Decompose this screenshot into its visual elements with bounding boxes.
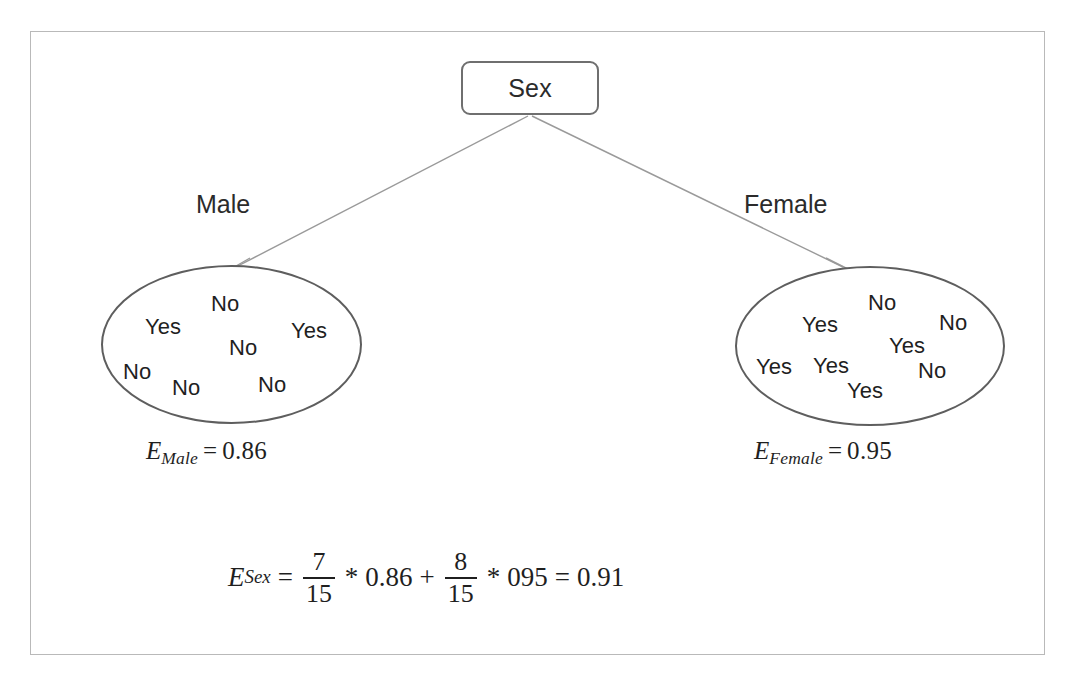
figure-canvas: Sex Male Female NoYesYesNoNoNoNo NoYesNo… [0, 0, 1079, 694]
entropy-female-subscript: Female [769, 448, 823, 468]
entropy-male-equals: = [198, 437, 222, 464]
entropy-male-subscript: Male [161, 448, 198, 468]
weighted-entropy-equation: ESex= 7 15 *0.86+ 8 15 *095=0.91 [228, 548, 624, 606]
fraction-eight-fifteenths: 8 15 [445, 549, 477, 607]
leaf-class-label: No [229, 335, 257, 361]
equation-multiply-1: * [338, 562, 366, 593]
leaf-class-label: No [918, 358, 946, 384]
root-node-sex: Sex [461, 61, 599, 115]
equation-equals-2: = [548, 562, 577, 593]
leaf-class-label: No [939, 310, 967, 336]
leaf-class-label: No [258, 372, 286, 398]
entropy-label-male: EMale=0.86 [146, 437, 267, 469]
fraction-seven-fifteenths: 7 15 [303, 549, 335, 607]
leaf-class-label: No [868, 290, 896, 316]
entropy-female-symbol: E [754, 437, 769, 464]
leaf-ellipse-female: NoYesNoYesYesYesNoYes [735, 266, 1005, 426]
leaf-class-label: Yes [756, 354, 792, 380]
leaf-class-label: No [172, 375, 200, 401]
leaf-class-label: Yes [847, 378, 883, 404]
equation-result: 0.91 [577, 562, 624, 593]
entropy-label-female: EFemale=0.95 [754, 437, 892, 469]
fraction-1-numerator: 7 [309, 549, 328, 577]
leaf-class-label: No [123, 359, 151, 385]
leaf-class-label: Yes [813, 353, 849, 379]
equation-multiply-2: * [480, 562, 508, 593]
leaf-class-label: Yes [145, 314, 181, 340]
leaf-class-label: Yes [889, 333, 925, 359]
equation-term-1: 0.86 [365, 562, 412, 593]
equation-subscript: Sex [245, 566, 271, 588]
entropy-male-value: 0.86 [222, 437, 267, 464]
fraction-2-denominator: 15 [445, 579, 477, 607]
entropy-male-symbol: E [146, 437, 161, 464]
equation-symbol: E [228, 562, 245, 593]
equation-equals: = [271, 562, 300, 593]
leaf-class-label: Yes [802, 312, 838, 338]
equation-term-2: 095 [507, 562, 548, 593]
leaf-class-label: No [211, 291, 239, 317]
fraction-1-denominator: 15 [303, 579, 335, 607]
leaf-ellipse-male: NoYesYesNoNoNoNo [101, 265, 362, 424]
branch-label-male: Male [196, 190, 250, 219]
entropy-female-value: 0.95 [847, 437, 892, 464]
entropy-female-equals: = [823, 437, 847, 464]
fraction-2-numerator: 8 [451, 549, 470, 577]
leaf-class-label: Yes [291, 318, 327, 344]
equation-plus: + [413, 562, 442, 593]
root-node-label: Sex [508, 74, 552, 103]
branch-label-female: Female [744, 190, 827, 219]
